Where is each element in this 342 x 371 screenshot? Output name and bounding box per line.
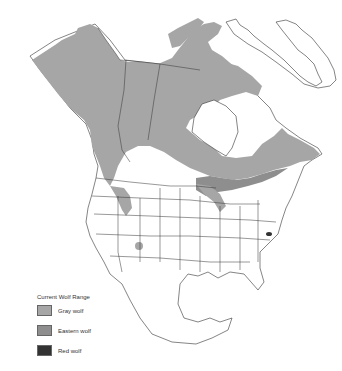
legend-item-eastern-wolf: Eastern wolf	[37, 325, 91, 336]
legend-label: Eastern wolf	[58, 328, 91, 334]
legend-title: Current Wolf Range	[37, 294, 91, 300]
legend-item-red-wolf: Red wolf	[37, 345, 91, 356]
legend-item-gray-wolf: Gray wolf	[37, 305, 91, 316]
gray-wolf-range-southwest	[135, 242, 143, 250]
red-wolf-swatch	[37, 345, 52, 356]
gray-wolf-swatch	[37, 305, 52, 316]
legend-label: Gray wolf	[58, 308, 83, 314]
legend-label: Red wolf	[58, 348, 81, 354]
eastern-wolf-swatch	[37, 325, 52, 336]
legend: Current Wolf Range Gray wolf Eastern wol…	[37, 294, 91, 365]
red-wolf-range	[266, 232, 272, 236]
